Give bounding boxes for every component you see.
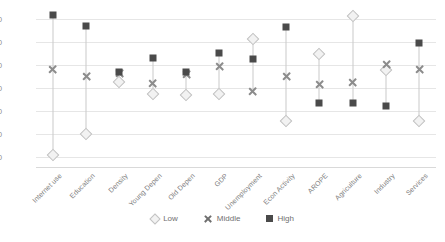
data-point-high bbox=[216, 49, 223, 56]
data-point-middle bbox=[47, 64, 58, 75]
data-point-high bbox=[316, 99, 323, 106]
gridline bbox=[36, 19, 436, 20]
legend-marker-low-icon bbox=[149, 213, 160, 224]
y-axis-tick-label: 1.00 bbox=[0, 15, 2, 24]
data-point-low bbox=[246, 32, 259, 45]
data-point-high bbox=[416, 40, 423, 47]
legend-item[interactable]: Middle bbox=[204, 214, 241, 223]
data-point-high bbox=[83, 23, 90, 30]
data-point-middle bbox=[314, 79, 325, 90]
data-point-middle bbox=[81, 71, 92, 82]
data-point-middle bbox=[281, 71, 292, 82]
y-axis-tick-label: -1.40 bbox=[0, 152, 2, 161]
data-point-low bbox=[80, 127, 93, 140]
gridline bbox=[36, 111, 436, 112]
data-point-middle bbox=[247, 86, 258, 97]
data-point-low bbox=[313, 47, 326, 60]
data-point-high bbox=[249, 56, 256, 63]
data-point-middle bbox=[347, 77, 358, 88]
y-axis-tick-label: 0.20 bbox=[0, 61, 2, 70]
data-point-low bbox=[46, 149, 59, 162]
y-axis-tick-label: -0.60 bbox=[0, 106, 2, 115]
data-point-high bbox=[349, 99, 356, 106]
data-point-high bbox=[283, 24, 290, 31]
legend-label: High bbox=[277, 214, 293, 223]
data-point-low bbox=[280, 115, 293, 128]
x-axis-line bbox=[36, 167, 436, 168]
data-point-high bbox=[49, 11, 56, 18]
data-point-high bbox=[183, 69, 190, 76]
gridline bbox=[36, 157, 436, 158]
connector-line bbox=[352, 16, 353, 103]
gridline bbox=[36, 42, 436, 43]
gridline bbox=[36, 134, 436, 135]
legend-item[interactable]: High bbox=[266, 214, 293, 223]
data-point-low bbox=[146, 87, 159, 100]
gridline bbox=[36, 65, 436, 66]
legend-marker-high-icon bbox=[266, 215, 273, 222]
y-axis-tick-label: -1.00 bbox=[0, 129, 2, 138]
data-point-low bbox=[413, 115, 426, 128]
data-point-middle bbox=[414, 64, 425, 75]
chart-container: 1.000.600.20-0.20-0.60-1.00-1.40 Interne… bbox=[0, 0, 445, 242]
y-axis-tick-label: 0.60 bbox=[0, 38, 2, 47]
gridline bbox=[36, 88, 436, 89]
connector-line bbox=[252, 39, 253, 92]
data-point-low bbox=[213, 87, 226, 100]
y-axis-tick-label: -0.20 bbox=[0, 84, 2, 93]
plot-area bbox=[36, 8, 436, 168]
data-point-middle bbox=[381, 59, 392, 70]
data-point-high bbox=[116, 69, 123, 76]
data-point-middle bbox=[214, 61, 225, 72]
connector-line bbox=[419, 43, 420, 121]
data-point-high bbox=[149, 55, 156, 62]
data-point-low bbox=[346, 10, 359, 23]
chart-legend: LowMiddleHigh bbox=[0, 214, 445, 223]
data-point-low bbox=[180, 88, 193, 101]
data-point-middle bbox=[147, 78, 158, 89]
data-point-high bbox=[383, 103, 390, 110]
legend-marker-middle-icon bbox=[204, 214, 213, 223]
legend-item[interactable]: Low bbox=[151, 214, 178, 223]
legend-label: Low bbox=[163, 214, 178, 223]
connector-line bbox=[52, 15, 53, 156]
legend-label: Middle bbox=[217, 214, 241, 223]
